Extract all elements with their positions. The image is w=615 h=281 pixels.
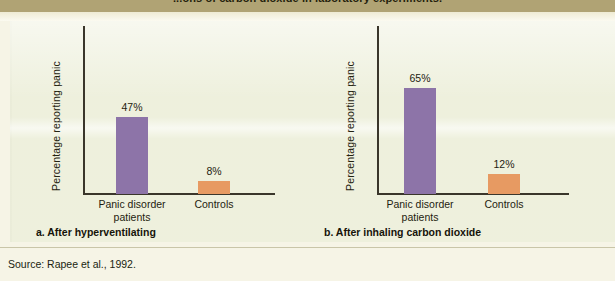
figure-panel: Percentage reporting panic 47% Panic dis… bbox=[10, 21, 615, 242]
chart-b: Percentage reporting panic 65% Panic dis… bbox=[322, 21, 612, 242]
chart-b-y-axis-line bbox=[377, 26, 379, 194]
top-caption-band: ...ons of carbon dioxide in laboratory e… bbox=[0, 0, 615, 12]
source-citation: Source: Rapee et al., 1992. bbox=[8, 258, 136, 270]
source-divider bbox=[0, 247, 615, 248]
chart-a-y-axis-label: Percentage reporting panic bbox=[50, 31, 63, 191]
chart-a-bar-value-controls: 8% bbox=[192, 165, 236, 177]
chart-b-caption: b. After inhaling carbon dioxide bbox=[324, 226, 481, 238]
chart-b-bar-panic-disorder bbox=[404, 88, 436, 194]
chart-a-category-label-panic-disorder: Panic disorder patients bbox=[82, 198, 182, 223]
chart-a-x-axis-line bbox=[83, 193, 275, 195]
chart-b-bar-value-panic-disorder: 65% bbox=[398, 72, 442, 84]
chart-a-caption: a. After hyperventilating bbox=[36, 226, 156, 238]
top-caption-text: ...ons of carbon dioxide in laboratory e… bbox=[0, 0, 615, 4]
chart-a-bar-panic-disorder bbox=[116, 117, 148, 194]
chart-a-category-label-controls: Controls bbox=[174, 198, 254, 211]
chart-b-category-label-controls: Controls bbox=[464, 198, 544, 211]
chart-b-bar-value-controls: 12% bbox=[482, 158, 526, 170]
chart-a: Percentage reporting panic 47% Panic dis… bbox=[28, 21, 318, 242]
chart-b-category-label-panic-disorder: Panic disorder patients bbox=[370, 198, 470, 223]
chart-a-bar-value-panic-disorder: 47% bbox=[110, 101, 154, 113]
chart-a-bar-controls bbox=[198, 181, 230, 194]
chart-b-y-axis-label: Percentage reporting panic bbox=[344, 31, 357, 191]
chart-a-y-axis-line bbox=[83, 26, 85, 194]
chart-b-bar-controls bbox=[488, 174, 520, 194]
panel-top-highlight bbox=[0, 12, 615, 21]
